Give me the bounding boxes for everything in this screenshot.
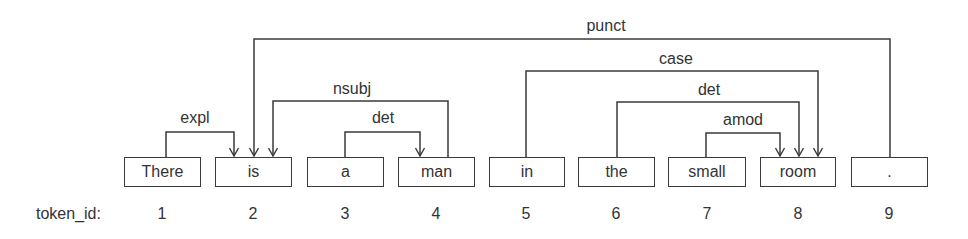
- arc-det-room: [617, 102, 799, 157]
- arc-label-amod: amod: [723, 111, 763, 129]
- token-box-4: man: [398, 157, 475, 187]
- token-box-5: in: [489, 157, 565, 187]
- token-box-8: room: [760, 157, 836, 187]
- token-box-2: is: [215, 157, 292, 187]
- token-id-5: 5: [506, 205, 546, 223]
- arc-label-case: case: [659, 50, 693, 68]
- token-id-6: 6: [596, 205, 636, 223]
- token-id-3: 3: [325, 205, 365, 223]
- token-box-1: There: [124, 157, 201, 187]
- arc-expl: [166, 132, 234, 157]
- arc-amod: [706, 133, 780, 157]
- dependency-arcs: [0, 0, 968, 239]
- token-id-7: 7: [687, 205, 727, 223]
- token-id-8: 8: [778, 205, 818, 223]
- token-box-9: .: [851, 157, 928, 187]
- arc-punct: [254, 39, 890, 157]
- token-box-3: a: [307, 157, 384, 187]
- token-id-row-label: token_id:: [36, 205, 101, 223]
- token-id-2: 2: [233, 205, 273, 223]
- token-id-1: 1: [142, 205, 182, 223]
- token-id-4: 4: [416, 205, 456, 223]
- token-id-9: 9: [869, 205, 909, 223]
- arc-label-det-man: det: [372, 109, 394, 127]
- arc-case: [526, 71, 818, 157]
- token-box-7: small: [668, 157, 746, 187]
- arc-label-expl: expl: [180, 109, 209, 127]
- arc-label-nsubj: nsubj: [333, 80, 371, 98]
- arc-det-man: [345, 132, 420, 157]
- arc-nsubj: [273, 101, 448, 157]
- arc-label-punct: punct: [586, 17, 625, 35]
- token-box-6: the: [578, 157, 655, 187]
- arc-label-det-room: det: [698, 81, 720, 99]
